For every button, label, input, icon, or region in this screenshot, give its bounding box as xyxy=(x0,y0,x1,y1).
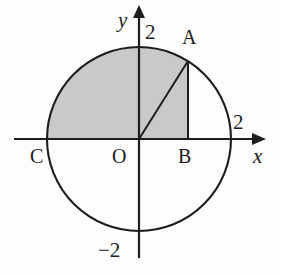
y-axis-tick-label-negative: −2 xyxy=(98,240,120,261)
y-axis-tick-label-positive: 2 xyxy=(145,22,156,43)
point-label-a: A xyxy=(182,27,196,47)
diagram-canvas xyxy=(0,0,281,275)
point-label-o: O xyxy=(112,146,126,166)
point-label-c: C xyxy=(30,146,43,166)
y-axis-arrowhead xyxy=(133,5,145,18)
x-axis-label: x xyxy=(253,146,262,167)
point-label-b: B xyxy=(178,146,191,166)
y-axis-label: y xyxy=(118,10,127,31)
circle-diagram-figure: y 2 A 2 x C O B −2 xyxy=(0,0,281,275)
x-axis-tick-label: 2 xyxy=(233,112,244,133)
